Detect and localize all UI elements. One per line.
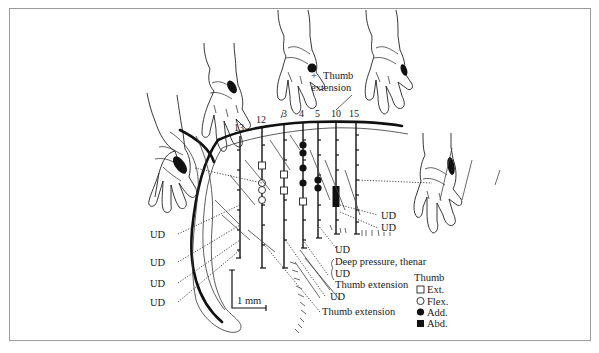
thumb-extension-label: Thumb extension [335, 279, 409, 290]
hand-top-right [365, 10, 412, 114]
ud-label: UD [381, 222, 397, 233]
marker-add [314, 176, 321, 183]
deep-pressure-label: Deep pressure, thenar [335, 256, 427, 267]
track-label: 5 [315, 108, 320, 119]
hand-left-low [147, 93, 197, 212]
open-circle-icon [417, 297, 424, 304]
marker-flex [259, 197, 266, 204]
hand-top-center [277, 10, 324, 114]
ud-label: UD [330, 291, 346, 302]
plus-marker: + [311, 70, 317, 81]
track-label: 15 [349, 108, 359, 119]
legend: Thumb Ext. Flex. Add. Abd. [414, 272, 448, 329]
bottom-labels: UD Deep pressure, thenar UD Thumb extens… [322, 244, 427, 317]
ud-label: UD [150, 297, 166, 308]
marker-add [314, 184, 321, 191]
thumb-extension-label: Thumb extension [322, 306, 396, 317]
marker-ext [281, 171, 288, 178]
marker-add [299, 179, 306, 186]
legend-label: Add. [427, 307, 448, 318]
ud-label: UD [150, 278, 166, 289]
ud-label: UD [335, 244, 351, 255]
marker-add [299, 164, 306, 171]
ud-label: UD [335, 268, 351, 279]
open-square-icon [417, 286, 424, 293]
marker-add [299, 149, 306, 156]
legend-title: Thumb [414, 272, 444, 283]
legend-label: Flex. [427, 296, 448, 307]
track-label: 12 [256, 114, 266, 125]
marker-ext [259, 162, 266, 169]
ud-label: UD [150, 257, 166, 268]
legend-label: Ext. [427, 284, 444, 295]
recording-markers [259, 141, 340, 207]
marker-abd [333, 200, 340, 207]
ud-label: UD [381, 210, 397, 221]
scale-bar-label: 1 mm [237, 295, 261, 306]
left-ud-labels: UD UD UD UD [150, 229, 166, 308]
electrode-track-diagram: 13 12 3 4 5 10 15 [0, 0, 599, 353]
track-label: 4 [299, 108, 304, 119]
marker-ext [281, 187, 288, 194]
ud-label: UD [150, 229, 166, 240]
scale-bar: 1 mm [229, 270, 266, 311]
filled-square-icon [417, 320, 424, 327]
filled-circle-icon [417, 308, 424, 315]
hand-left-mid [202, 43, 250, 151]
annotation-line1: Thumb [323, 70, 353, 81]
legend-label: Abd. [427, 318, 448, 329]
right-ud-labels: UD UD [381, 210, 397, 233]
marker-flex [259, 187, 266, 194]
marker-ext [300, 198, 307, 205]
marker-add [299, 141, 306, 148]
track-label: 13 [234, 122, 244, 133]
annotation-line2: extension [311, 82, 352, 93]
